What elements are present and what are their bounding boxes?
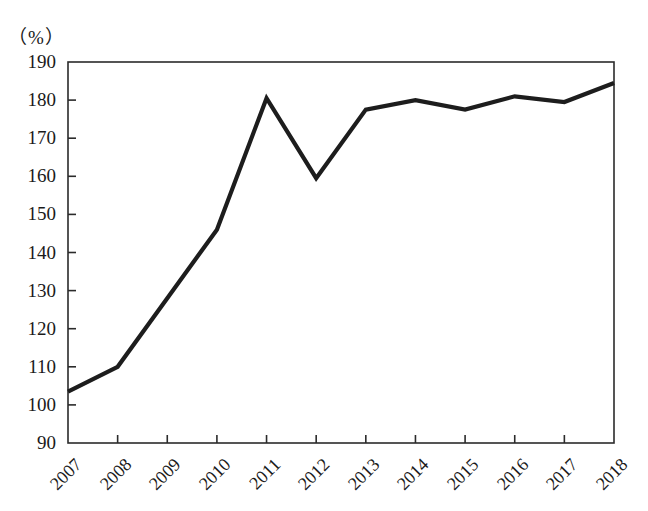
x-tick-label: 2007: [39, 455, 84, 500]
x-tick-label: 2012: [288, 455, 333, 500]
x-tick-label: 2016: [486, 455, 531, 500]
x-axis-tick-labels: 2007200820092010201120122013201420152016…: [0, 0, 648, 511]
x-tick-label: 2014: [387, 455, 432, 500]
line-chart: （%） 90100110120130140150160170180190 200…: [0, 0, 648, 511]
x-tick-label: 2010: [188, 455, 233, 500]
x-tick-label: 2009: [139, 455, 184, 500]
x-tick-label: 2011: [238, 455, 283, 500]
x-tick-label: 2013: [337, 455, 382, 500]
x-tick-label: 2017: [536, 455, 581, 500]
x-tick-label: 2008: [89, 455, 134, 500]
x-tick-label: 2018: [585, 455, 630, 500]
x-tick-label: 2015: [437, 455, 482, 500]
